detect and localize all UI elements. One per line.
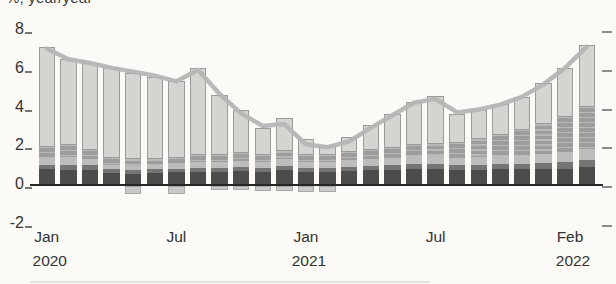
x-axis-year-2020: 2020 xyxy=(33,252,67,270)
segment-component-light-band xyxy=(255,162,272,168)
segment-component-dark-bottom xyxy=(557,169,574,184)
segment-component-medium xyxy=(147,159,164,165)
segment-component-medium xyxy=(168,158,185,164)
segment-component-medium-dark xyxy=(60,165,77,171)
segment-component-light-band xyxy=(319,162,336,168)
segment-component-light-top xyxy=(82,63,99,150)
segment-component-dark-bottom xyxy=(579,167,596,184)
segment-component-light-band xyxy=(406,156,423,164)
y-axis-label-8: 8 xyxy=(0,20,24,38)
segment-component-dark-bottom xyxy=(39,169,56,184)
segment-component-dark-bottom xyxy=(341,171,358,184)
segment-component-light-top xyxy=(471,110,488,139)
segment-component-medium xyxy=(406,145,423,156)
scanned-chart-page: %, year/year 86420-2Jan2020JulJan2021Jul… xyxy=(0,0,616,284)
segment-component-light-band xyxy=(341,160,358,167)
segment-component-medium-dark xyxy=(319,168,336,173)
x-axis-month-Jul: Jul xyxy=(166,228,186,246)
bar-jun-2020 xyxy=(147,0,164,284)
x-axis-year-2021: 2021 xyxy=(292,252,326,270)
y-axis-label--2: -2 xyxy=(0,214,24,232)
segment-component-light-band xyxy=(103,165,120,170)
segment-component-negative xyxy=(276,186,293,191)
segment-component-light-top xyxy=(233,110,250,153)
bar-may-2021 xyxy=(384,0,401,284)
segment-component-light-band xyxy=(579,149,596,160)
segment-component-light-band xyxy=(449,158,466,165)
segment-component-medium-dark xyxy=(514,164,531,170)
segment-component-medium xyxy=(341,152,358,160)
bar-aug-2021 xyxy=(449,0,466,284)
segment-component-dark-bottom xyxy=(535,169,552,184)
segment-component-dark-bottom xyxy=(427,169,444,184)
segment-component-negative xyxy=(125,186,142,194)
segment-component-medium-dark xyxy=(276,166,293,171)
bar-nov-2021 xyxy=(514,0,531,284)
segment-component-light-top xyxy=(384,114,401,148)
segment-component-negative xyxy=(168,186,185,194)
segment-component-dark-bottom xyxy=(190,172,207,184)
segment-component-medium-dark xyxy=(190,168,207,173)
segment-component-light-top xyxy=(168,81,185,157)
segment-component-medium xyxy=(514,130,531,155)
segment-component-medium xyxy=(363,150,380,159)
segment-component-medium-dark xyxy=(449,165,466,171)
segment-component-medium-dark xyxy=(406,164,423,170)
segment-component-dark-bottom xyxy=(168,172,185,184)
y-axis-label-4: 4 xyxy=(0,98,24,116)
segment-component-dark-bottom xyxy=(319,172,336,184)
segment-component-medium xyxy=(39,147,56,158)
segment-component-light-top xyxy=(211,95,228,155)
segment-component-dark-bottom xyxy=(363,170,380,184)
bar-mar-2021 xyxy=(341,0,358,284)
right-axis-tick-6 xyxy=(602,70,612,72)
segment-component-medium xyxy=(535,124,552,154)
segment-component-light-top xyxy=(557,68,574,117)
bar-nov-2020 xyxy=(255,0,272,284)
segment-component-medium-dark xyxy=(535,163,552,169)
segment-component-light-top xyxy=(125,73,142,159)
segment-component-medium-dark xyxy=(125,170,142,174)
y-axis-tick-6 xyxy=(25,71,32,73)
chart-plot-area: 86420-2Jan2020JulJan2021JulFeb2022 xyxy=(0,0,616,284)
segment-component-light-band xyxy=(427,156,444,164)
segment-component-medium-dark xyxy=(298,168,315,173)
segment-component-light-band xyxy=(557,152,574,162)
segment-component-light-top xyxy=(449,114,466,143)
bar-aug-2020 xyxy=(190,0,207,284)
segment-component-medium-dark xyxy=(579,160,596,167)
segment-component-medium-dark xyxy=(471,165,488,171)
segment-component-medium xyxy=(276,151,293,159)
segment-component-medium xyxy=(492,135,509,156)
bar-sep-2021 xyxy=(471,0,488,284)
segment-component-medium xyxy=(82,150,99,159)
segment-component-dark-bottom xyxy=(255,172,272,184)
bar-oct-2020 xyxy=(233,0,250,284)
y-axis-label-0: 0 xyxy=(0,175,24,193)
segment-component-light-top xyxy=(427,96,444,144)
bar-oct-2021 xyxy=(492,0,509,284)
segment-component-medium xyxy=(60,145,77,157)
x-axis-month-Jan2020: Jan xyxy=(34,228,59,246)
segment-component-light-top xyxy=(492,104,509,135)
segment-component-light-top xyxy=(406,102,423,146)
segment-component-dark-bottom xyxy=(406,169,423,184)
segment-component-light-top xyxy=(298,139,315,154)
x-axis-year-2022: 2022 xyxy=(556,252,590,270)
segment-component-light-top xyxy=(363,125,380,150)
segment-component-medium xyxy=(557,117,574,152)
segment-component-negative xyxy=(298,186,315,192)
segment-component-medium-dark xyxy=(233,167,250,172)
segment-component-light-top xyxy=(39,47,56,148)
segment-component-medium xyxy=(384,148,401,158)
bar-apr-2020 xyxy=(103,0,120,284)
segment-component-light-band xyxy=(471,157,488,165)
segment-component-medium xyxy=(125,159,142,166)
segment-component-medium xyxy=(298,155,315,162)
x-axis-month-Jan2021: Jan xyxy=(293,228,318,246)
segment-component-medium xyxy=(471,139,488,156)
bar-may-2020 xyxy=(125,0,142,284)
segment-component-light-band xyxy=(384,158,401,165)
segment-component-medium-dark xyxy=(168,169,185,173)
segment-component-medium xyxy=(103,158,120,165)
